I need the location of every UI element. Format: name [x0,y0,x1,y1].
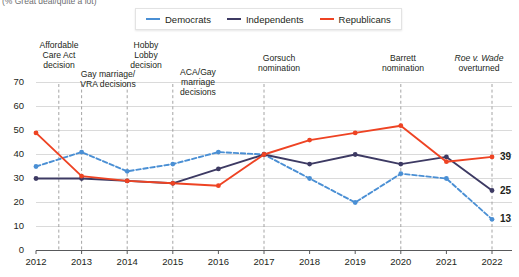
annotation-gorsuch-nomination: Gorsuch nomination [243,54,315,74]
data-point [353,131,358,136]
data-point [444,176,449,181]
data-point [125,169,130,174]
annotation-barrett-nomination: Barrett nomination [369,54,437,74]
x-axis-label-2021: 2021 [426,256,466,267]
y-axis-label-40: 40 [2,148,24,159]
data-point [125,179,130,184]
x-axis-label-2022: 2022 [472,256,512,267]
data-point [398,171,403,176]
annotation-aca-gay-marriage: ACA/Gay marriage decisions [170,68,226,97]
annotation-affordable-care-act: Affordable Care Act decision [28,41,90,70]
data-point [490,217,495,222]
x-axis-label-2016: 2016 [198,256,238,267]
data-point [216,183,221,188]
x-axis-label-2012: 2012 [16,256,56,267]
data-point [307,138,312,143]
x-axis-label-2019: 2019 [335,256,375,267]
x-axis-label-2018: 2018 [290,256,330,267]
data-point [216,150,221,155]
y-axis-label-70: 70 [2,76,24,87]
data-point [170,162,175,167]
data-point [353,200,358,205]
data-point [216,167,221,172]
data-point [444,159,449,164]
end-label-republicans: 39 [500,151,511,162]
y-axis-label-0: 0 [2,244,24,255]
annotation-hobby-lobby: Hobby Lobby decision [120,41,172,70]
data-point [307,176,312,181]
end-label-democrats: 13 [500,213,511,224]
data-point [34,131,39,136]
data-point [307,162,312,167]
data-point [79,150,84,155]
data-point [170,181,175,186]
y-axis-label-10: 10 [2,220,24,231]
x-axis-label-2017: 2017 [244,256,284,267]
data-point [444,155,449,160]
y-axis-label-60: 60 [2,100,24,111]
x-axis-label-2020: 2020 [381,256,421,267]
end-label-independents: 25 [500,185,511,196]
data-point [490,188,495,193]
data-point [398,162,403,167]
y-axis-label-50: 50 [2,124,24,135]
data-point [34,164,39,169]
data-point [353,152,358,157]
x-axis-label-2013: 2013 [62,256,102,267]
annotation-roe-v-wade-overturned: Roe v. Wade overturned [443,54,515,74]
y-axis-label-30: 30 [2,172,24,183]
annotation-gay-marriage-vra: Gay marriage/ VRA decisions [70,70,146,90]
data-point [490,155,495,160]
data-point [398,123,403,128]
x-axis-label-2015: 2015 [153,256,193,267]
chart-root: (% Great deal/quite a lot) DemocratsInde… [0,0,519,277]
data-point [262,152,267,157]
x-axis-label-2014: 2014 [107,256,147,267]
y-axis-label-20: 20 [2,196,24,207]
data-point [79,174,84,179]
data-point [34,176,39,181]
